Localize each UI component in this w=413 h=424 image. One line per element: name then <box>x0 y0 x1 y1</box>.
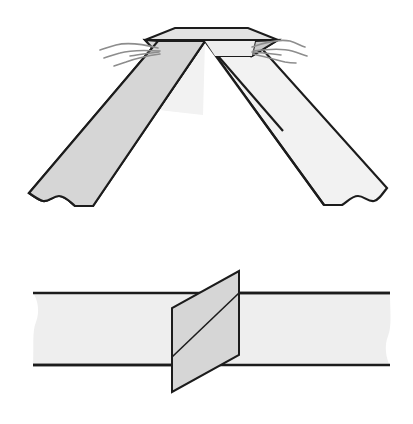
bottom-view-group <box>33 271 391 392</box>
slanted-strip-shape <box>172 271 239 392</box>
apex-back-flap <box>145 28 278 40</box>
apex-back-flap-shape <box>145 28 278 40</box>
paper-strips-illustration: Two overlapping paper strips crossed and… <box>0 0 413 424</box>
figure-root: Two overlapping paper strips crossed and… <box>0 0 413 424</box>
top-view-group <box>29 28 387 206</box>
